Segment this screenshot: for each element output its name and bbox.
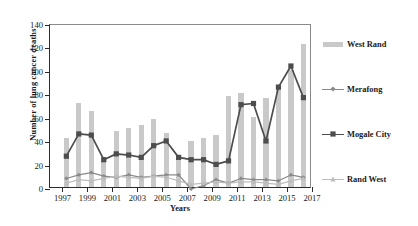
series-marker (238, 102, 243, 107)
triangle-marker-icon (330, 176, 336, 182)
x-tick-mark (62, 187, 63, 192)
series-marker (89, 171, 93, 175)
y-tick-mark (45, 72, 50, 73)
x-axis-title: Years (49, 204, 311, 213)
legend-bar-swatch-icon (322, 39, 344, 50)
series-marker (89, 133, 94, 138)
x-tick-mark (237, 187, 238, 192)
legend-item-label: West Rand (347, 40, 386, 49)
square-marker-icon (330, 131, 336, 137)
series-marker (77, 173, 81, 177)
legend-item-label: Rand West (347, 175, 386, 184)
y-tick-label: 0 (13, 184, 43, 194)
y-tick-mark (45, 119, 50, 120)
y-tick-label: 80 (13, 90, 43, 100)
y-tick-label: 40 (13, 137, 43, 147)
legend-item-label: Mogale City (347, 130, 391, 139)
y-tick-label: 100 (13, 67, 43, 77)
plot-area: 020406080100120140 199719992001200320052… (49, 24, 311, 188)
legend-item[interactable]: Merafong (322, 83, 382, 95)
x-tick-mark (87, 187, 88, 192)
x-tick-label: 2017 (303, 193, 320, 203)
y-tick-label: 20 (13, 161, 43, 171)
x-tick-mark (112, 187, 113, 192)
series-marker (189, 157, 194, 162)
legend-diamond-marker-icon (322, 84, 344, 95)
x-tick-mark (212, 187, 213, 192)
x-tick-label: 2013 (254, 193, 271, 203)
legend-triangle-marker-icon (322, 174, 344, 185)
x-tick-label: 2001 (104, 193, 121, 203)
y-tick-mark (45, 166, 50, 167)
series-marker (251, 101, 256, 106)
series-line (66, 66, 303, 164)
x-tick-label: 2011 (229, 193, 246, 203)
line-series (64, 171, 305, 192)
series-marker (176, 155, 181, 160)
x-tick-mark (287, 187, 288, 192)
y-tick-mark (45, 25, 50, 26)
x-tick-label: 2003 (129, 193, 146, 203)
legend-square-marker-icon (322, 129, 344, 140)
x-tick-label: 2007 (179, 193, 196, 203)
series-marker (164, 138, 169, 143)
y-tick-mark (45, 142, 50, 143)
y-tick-mark (45, 189, 50, 190)
series-marker (201, 157, 206, 162)
series-marker (213, 162, 218, 167)
x-tick-label: 2005 (154, 193, 171, 203)
series-marker (139, 155, 144, 160)
x-tick-label: 1999 (79, 193, 96, 203)
series-marker (64, 154, 69, 159)
series-marker (126, 152, 131, 157)
y-tick-mark (45, 48, 50, 49)
y-tick-label: 120 (13, 43, 43, 53)
legend-item[interactable]: Rand West (322, 173, 386, 185)
legend-item[interactable]: West Rand (322, 38, 386, 50)
series-marker (114, 151, 119, 156)
y-tick-label: 60 (13, 114, 43, 124)
series-marker (263, 138, 268, 143)
x-tick-label: 1997 (54, 193, 71, 203)
x-tick-mark (262, 187, 263, 192)
series-marker (101, 157, 106, 162)
series-marker (226, 158, 231, 163)
x-tick-label: 2009 (204, 193, 221, 203)
series-marker (288, 63, 293, 68)
series-marker (151, 143, 156, 148)
legend-item[interactable]: Mogale City (322, 128, 391, 140)
series-marker (76, 131, 81, 136)
series-marker (276, 84, 281, 89)
series-marker (64, 176, 68, 180)
y-tick-mark (45, 95, 50, 96)
line-series (64, 63, 306, 167)
series-marker (289, 173, 293, 177)
line-series-layer (50, 25, 312, 189)
x-tick-mark (312, 187, 313, 192)
bar-swatch-icon (323, 42, 343, 47)
lung-cancer-deaths-chart: Number of lung cancer deaths 02040608010… (0, 0, 418, 226)
x-tick-label: 2015 (278, 193, 295, 203)
x-tick-mark (187, 187, 188, 192)
y-tick-label: 140 (13, 20, 43, 30)
legend-item-label: Merafong (347, 85, 382, 94)
x-tick-mark (162, 187, 163, 192)
x-tick-mark (137, 187, 138, 192)
series-line (66, 173, 303, 189)
series-marker (301, 95, 306, 100)
diamond-marker-icon (330, 86, 336, 92)
plot-inner (50, 25, 310, 187)
